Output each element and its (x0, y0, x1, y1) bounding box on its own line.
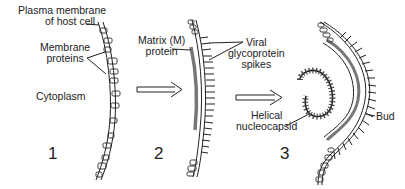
step-number-2: 2 (154, 144, 163, 164)
label-plasma-membrane: Plasma membrane of host cell (18, 5, 106, 27)
step-number-1: 1 (48, 144, 57, 164)
label-bud: Bud (376, 111, 395, 122)
panel-3-bud (286, 22, 376, 185)
label-helical-nucleocapsid: Helical nucleocapsid (236, 110, 297, 132)
arrow-1-to-2 (137, 82, 182, 97)
helical-nucleocapsid-icon (300, 70, 333, 116)
label-matrix-protein: Matrix (M) protein (138, 35, 185, 57)
label-cytoplasm: Cytoplasm (36, 91, 86, 102)
label-membrane-proteins: Membrane proteins (40, 42, 90, 64)
step-number-3: 3 (280, 144, 289, 164)
label-viral-glycoprotein-spikes: Viral glycoprotein spikes (228, 37, 285, 70)
panel-1-membrane (86, 22, 120, 180)
arrow-2-to-3 (236, 90, 282, 105)
